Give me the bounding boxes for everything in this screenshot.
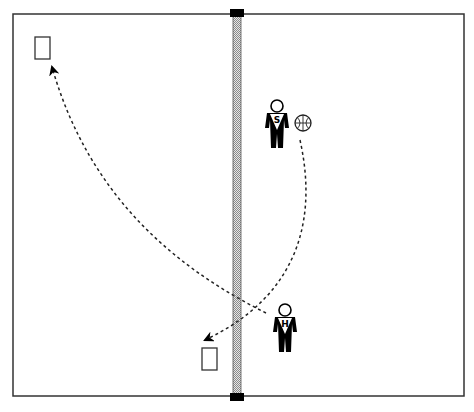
player-h-label: H <box>281 319 289 329</box>
net-post-top <box>230 9 244 17</box>
net-post-bottom <box>230 393 244 401</box>
target-left-top <box>35 37 50 59</box>
target-left-bottom <box>202 348 217 370</box>
volleyball-icon <box>295 115 311 131</box>
court-diagram: S H <box>0 0 474 412</box>
player-s-label: S <box>274 115 280 125</box>
